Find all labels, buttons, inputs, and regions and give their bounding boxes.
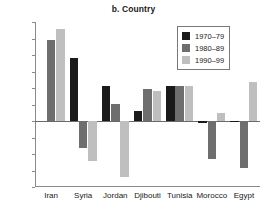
bar-tunisia-1980-89 [175,86,184,121]
bar-tunisia-1990-99 [185,86,194,121]
legend-label: 1990–99 [195,56,224,65]
x-category-label-egypt: Egypt [234,191,254,200]
bar-egypt-1980-89 [240,121,249,168]
bar-syria-1990-99 [88,121,97,161]
bar-syria-1970-79 [70,58,79,121]
x-category-label-djibouti: Djibouti [134,191,161,200]
y-tick-mark [32,171,35,172]
legend: 1970–791980–891990–99 [177,26,230,70]
legend-label: 1980–89 [195,44,224,53]
legend-item-1990–99[interactable]: 1990–99 [182,54,224,66]
bar-morocco-1980-89 [208,121,217,159]
legend-swatch-icon [182,56,190,64]
x-category-label-syria: Syria [74,191,92,200]
y-tick-mark [32,138,35,139]
bar-syria-1980-89 [79,121,88,148]
bar-egypt-1970-79 [230,121,239,122]
x-category-label-iran: Iran [44,191,58,200]
y-tick-mark [32,187,35,188]
x-category-label-tunisia: Tunisia [167,191,193,200]
bar-jordan-1990-99 [120,121,129,177]
bar-iran-1990-99 [56,29,65,121]
y-axis-line [35,22,36,187]
y-tick-mark [32,121,35,122]
bar-djibouti-1970-79 [134,111,143,121]
legend-item-1980–89[interactable]: 1980–89 [182,42,224,54]
chart-title: b. Country [0,4,267,14]
bar-djibouti-1980-89 [143,89,152,121]
bar-djibouti-1990-99 [153,91,162,121]
legend-item-1970–79[interactable]: 1970–79 [182,30,224,42]
y-tick-mark [32,22,35,23]
y-tick-mark [32,105,35,106]
bar-jordan-1980-89 [111,104,120,121]
bar-tunisia-1970-79 [166,86,175,121]
y-tick-mark [32,55,35,56]
legend-label: 1970–79 [195,32,224,41]
bar-morocco-1970-79 [198,121,207,123]
x-category-label-jordan: Jordan [103,191,127,200]
legend-swatch-icon [182,44,190,52]
country-bar-chart: b. Country 1.21.00.80.60.40.20-0.2-0.4-0… [0,0,267,213]
x-category-label-morocco: Morocco [196,191,227,200]
bar-egypt-1990-99 [249,82,258,121]
y-tick-mark [32,154,35,155]
y-tick-mark [32,39,35,40]
legend-swatch-icon [182,32,190,40]
bar-iran-1980-89 [47,40,56,121]
bar-jordan-1970-79 [102,86,111,121]
y-tick-mark [32,88,35,89]
y-tick-mark [32,72,35,73]
x-axis-bottom-line [35,186,260,187]
bar-morocco-1990-99 [217,113,226,121]
zero-baseline [35,121,260,122]
